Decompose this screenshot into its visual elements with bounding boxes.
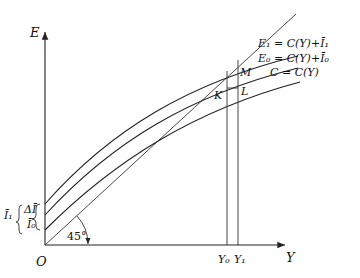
c-label: C = C(Y) [270,66,319,79]
y1-label: Y₁ [234,253,246,266]
origin-label: O [36,254,47,269]
y0-label: Y₀ [218,253,230,266]
curve-c [45,82,300,230]
e0-label: E₀ = C(Y)+Ī₀ [257,52,329,65]
curve-e0 [45,68,298,215]
i0-label: Ī₀ [26,218,36,231]
angle-label: 45° [67,230,87,243]
e-axis-label: E [29,25,40,40]
point-k-label: K [213,89,223,102]
i1-label: Ī₁ [3,209,13,222]
e1-label: E₁ = C(Y)+Ī₁ [257,37,329,50]
delta-i-label: ΔĪ [23,203,37,216]
point-l-label: L [240,85,248,98]
intercept-brace-left [16,205,22,234]
income-expenditure-diagram: E Y O 45° E₁ = C(Y)+Ī₁ E₀ = C(Y)+Ī₀ C = … [0,0,360,278]
point-m-label: M [239,66,252,79]
y-axis-label: Y [286,250,296,265]
